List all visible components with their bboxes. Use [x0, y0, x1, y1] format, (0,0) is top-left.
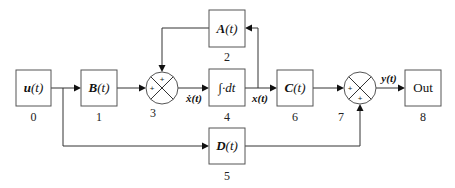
- block-D: D(t) 5: [209, 128, 245, 183]
- block-index: 0: [31, 110, 37, 124]
- plus-sign-left: +: [348, 84, 353, 93]
- block-label: ∫·dt: [218, 80, 236, 96]
- plus-sign-bottom: +: [358, 94, 363, 103]
- block-C: C(t) 6: [277, 70, 313, 124]
- block-B: B(t) 1: [81, 70, 117, 124]
- block-label: D(t): [215, 138, 238, 153]
- signal-label-y: y(t): [379, 72, 396, 85]
- block-label: Out: [413, 80, 433, 95]
- block-index: 8: [420, 110, 426, 124]
- block-label: u(t): [24, 80, 44, 95]
- block-index: 5: [224, 169, 230, 183]
- junction-index: 7: [338, 110, 344, 124]
- block-index: 6: [292, 110, 298, 124]
- signal-label-x: x(t): [251, 92, 268, 105]
- block-integrator: ∫·dt 4: [209, 69, 245, 124]
- block-index: 1: [96, 110, 102, 124]
- summing-junction-3: + + 3: [146, 72, 178, 120]
- summing-junction-7: + + 7: [338, 72, 376, 124]
- block-output: Out 8: [405, 70, 441, 124]
- block-label: B(t): [88, 80, 110, 95]
- block-label: C(t): [285, 80, 306, 95]
- block-diagram: u(t) 0 B(t) 1 A(t) 2 + + 3 ẋ(t) ∫·dt 4 x…: [0, 0, 455, 188]
- plus-sign-top: +: [160, 75, 165, 84]
- junction-index: 3: [150, 106, 156, 120]
- block-index: 4: [224, 110, 230, 124]
- signal-label-xdot: ẋ(t): [185, 92, 202, 105]
- block-A: A(t) 2: [209, 10, 245, 64]
- block-index: 2: [224, 50, 230, 64]
- block-label: A(t): [216, 21, 238, 36]
- block-input-u: u(t) 0: [16, 70, 51, 124]
- plus-sign-left: +: [150, 84, 155, 93]
